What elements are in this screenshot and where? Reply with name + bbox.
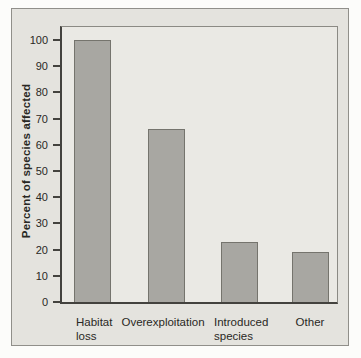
y-tick-mark — [53, 144, 60, 146]
y-tick-label: 50 — [6, 166, 48, 177]
y-tick-label: 100 — [6, 35, 48, 46]
plot-area: 0102030405060708090100 — [60, 26, 338, 304]
y-tick-mark — [53, 65, 60, 67]
y-tick-mark — [53, 170, 60, 172]
chart-figure: Percent of species affected 010203040506… — [11, 8, 349, 346]
y-tick-mark — [53, 249, 60, 251]
page-background: Percent of species affected 010203040506… — [0, 0, 361, 358]
bar-other — [292, 252, 329, 302]
bar-introduced-species — [221, 242, 258, 302]
y-tick-mark — [53, 196, 60, 198]
y-tick-mark — [53, 275, 60, 277]
y-tick-mark — [53, 118, 60, 120]
x-category-label: Other — [275, 315, 345, 329]
y-tick-label: 0 — [6, 297, 48, 308]
y-tick-label: 10 — [6, 270, 48, 281]
y-tick-mark — [53, 222, 60, 224]
y-tick-label: 20 — [6, 244, 48, 255]
y-tick-mark — [53, 301, 60, 303]
y-tick-label: 40 — [6, 192, 48, 203]
bar-overexploitation — [148, 129, 185, 302]
y-tick-label: 90 — [6, 61, 48, 72]
y-tick-label: 60 — [6, 139, 48, 150]
y-tick-label: 80 — [6, 87, 48, 98]
y-tick-mark — [53, 39, 60, 41]
bar-habitat-loss — [74, 40, 111, 302]
y-tick-mark — [53, 91, 60, 93]
y-tick-label: 70 — [6, 113, 48, 124]
y-tick-label: 30 — [6, 218, 48, 229]
y-axis-title: Percent of species affected — [20, 84, 32, 238]
